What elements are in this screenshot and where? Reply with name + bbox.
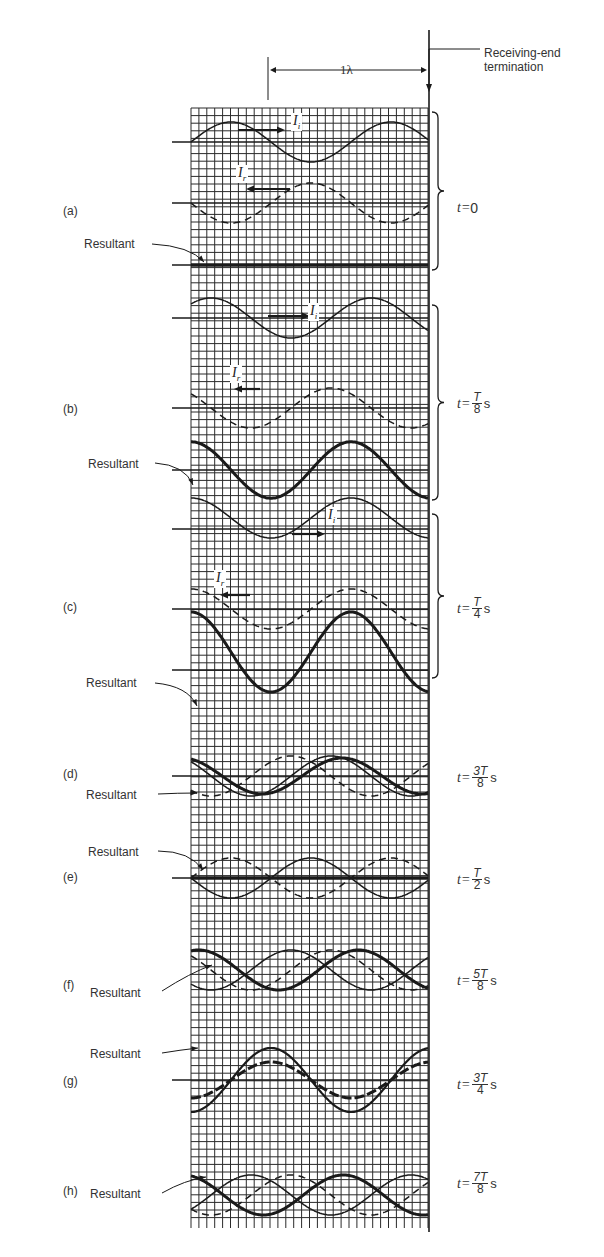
fraction-denominator: 8	[476, 981, 485, 992]
panel-letter-b: (b)	[63, 402, 78, 416]
incident-subscript: i	[298, 121, 301, 131]
termination-label-line1: Receiving-end	[484, 46, 561, 60]
time-unit: s	[484, 396, 491, 411]
termination-label: Receiving-end termination	[484, 46, 561, 74]
time-prefix: t=	[457, 872, 470, 888]
incident-label-a: Ii	[291, 113, 302, 131]
time-unit: s	[484, 601, 491, 616]
panel-letter-f: (f)	[63, 978, 74, 992]
time-label-f: t= 5T8 s	[457, 969, 497, 992]
resultant-label-h: Resultant	[90, 1187, 141, 1201]
panel-letter-g: (g)	[63, 1074, 78, 1088]
time-label-h: t= 7T8 s	[457, 1172, 497, 1195]
panel-letter-c: (c)	[63, 600, 77, 614]
time-label-a: t=0	[457, 200, 478, 216]
resultant-label-d: Resultant	[86, 788, 137, 802]
termination-label-line2: termination	[484, 60, 561, 74]
reflected-subscript: r	[237, 373, 241, 383]
fraction-denominator: 8	[476, 1184, 485, 1195]
time-prefix: t=	[457, 200, 470, 216]
time-fraction: T4	[472, 597, 481, 620]
time-label-c: t= T4 s	[457, 597, 490, 620]
incident-subscript: i	[315, 311, 318, 321]
time-fraction: 3T8	[472, 766, 488, 789]
time-prefix: t=	[457, 1077, 470, 1093]
resultant-label-a: Resultant	[84, 237, 135, 251]
time-fraction: T2	[472, 868, 481, 891]
fraction-denominator: 2	[473, 880, 482, 891]
panel-letter-h: (h)	[63, 1184, 78, 1198]
time-fraction: 7T8	[472, 1172, 488, 1195]
fraction-denominator: 4	[473, 609, 482, 620]
time-label-e: t= T2 s	[457, 868, 490, 891]
graph-paper-grid	[191, 30, 429, 1232]
incident-subscript: i	[333, 515, 336, 525]
time-prefix: t=	[457, 770, 470, 786]
time-unit: s	[490, 973, 497, 988]
time-unit: s	[490, 770, 497, 785]
time-unit: s	[484, 872, 491, 887]
wavelength-label: 1λ	[340, 62, 353, 78]
incident-label-b: Ii	[308, 303, 319, 321]
fraction-denominator: 8	[473, 404, 482, 415]
time-unit: s	[490, 1176, 497, 1191]
time-prefix: t=	[457, 396, 470, 412]
panel-letter-a: (a)	[63, 204, 78, 218]
fraction-denominator: 4	[476, 1085, 485, 1096]
time-fraction: 3T4	[472, 1073, 488, 1096]
standing-wave-diagram	[0, 0, 604, 1257]
time-prefix: t=	[457, 1176, 470, 1192]
reflected-subscript: r	[221, 578, 225, 588]
time-prefix: t=	[457, 601, 470, 617]
panel-letter-d: (d)	[63, 767, 78, 781]
time-label-d: t= 3T8 s	[457, 766, 497, 789]
fraction-denominator: 8	[476, 778, 485, 789]
time-fraction: 5T8	[472, 969, 488, 992]
resultant-label-f: Resultant	[90, 986, 141, 1000]
resultant-label-c: Resultant	[86, 676, 137, 690]
time-value: 0	[470, 200, 478, 216]
reflected-label-b: Ir	[230, 365, 242, 383]
reflected-subscript: r	[243, 173, 247, 183]
time-fraction: T8	[472, 392, 481, 415]
time-unit: s	[490, 1077, 497, 1092]
panel-letter-e: (e)	[63, 870, 78, 884]
incident-label-c: Ii	[326, 507, 337, 525]
time-label-b: t= T8 s	[457, 392, 490, 415]
reflected-label-c: Ir	[214, 570, 226, 588]
time-prefix: t=	[457, 973, 470, 989]
reflected-label-a: Ir	[236, 165, 248, 183]
annotations	[152, 49, 480, 1193]
resultant-label-g: Resultant	[90, 1047, 141, 1061]
resultant-label-b: Resultant	[88, 457, 139, 471]
resultant-label-e: Resultant	[88, 845, 139, 859]
time-label-g: t= 3T4 s	[457, 1073, 497, 1096]
